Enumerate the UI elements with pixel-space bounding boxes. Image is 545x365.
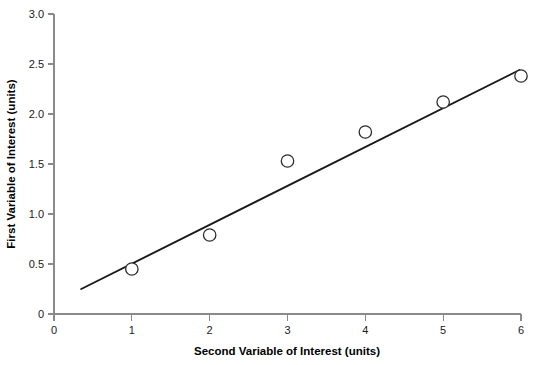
x-tick-label: 4	[362, 324, 368, 336]
x-tick-label: 2	[207, 324, 213, 336]
x-tick-label: 3	[284, 324, 290, 336]
data-point	[281, 155, 293, 167]
x-tick-label: 1	[129, 324, 135, 336]
chart-canvas: 00.51.01.52.02.53.0 0123456 Second Varia…	[0, 0, 545, 365]
x-tick-label: 6	[518, 324, 524, 336]
data-point	[203, 229, 215, 241]
x-axis-title: Second Variable of Interest (units)	[194, 345, 380, 357]
data-point	[515, 70, 527, 82]
y-tick-label: 0.5	[29, 258, 44, 270]
y-tick-label: 0	[38, 308, 44, 320]
y-tick-label: 1.5	[29, 158, 44, 170]
x-tick-label: 0	[51, 324, 57, 336]
y-tick-label: 2.0	[29, 108, 44, 120]
x-tick-label: 5	[440, 324, 446, 336]
y-axis-title: First Variable of Interest (units)	[5, 79, 17, 249]
y-tick-label: 2.5	[29, 58, 44, 70]
y-tick-label: 1.0	[29, 208, 44, 220]
chart-background	[0, 0, 545, 365]
y-tick-label: 3.0	[29, 8, 44, 20]
data-point	[126, 263, 138, 275]
scatter-chart: 00.51.01.52.02.53.0 0123456 Second Varia…	[0, 0, 545, 365]
data-point	[437, 96, 449, 108]
data-point	[359, 126, 371, 138]
